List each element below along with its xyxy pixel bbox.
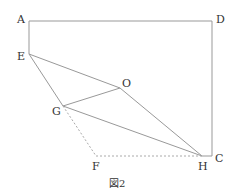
segment-GH <box>63 106 202 156</box>
figure-caption: 図2 <box>109 178 125 189</box>
segment-EG <box>29 54 63 106</box>
geometry-figure: A D E O G F H C 図2 <box>0 0 235 195</box>
label-H: H <box>198 160 208 173</box>
label-A: A <box>16 13 26 26</box>
segment-GF-dashed <box>63 106 96 156</box>
label-O: O <box>122 77 131 90</box>
label-F: F <box>92 160 100 173</box>
label-D: D <box>216 13 225 26</box>
label-E: E <box>17 50 25 63</box>
segment-EO <box>29 54 120 88</box>
label-C: C <box>215 152 223 165</box>
segment-GO <box>63 88 120 106</box>
segment-OH <box>120 88 202 156</box>
label-G: G <box>52 105 61 118</box>
